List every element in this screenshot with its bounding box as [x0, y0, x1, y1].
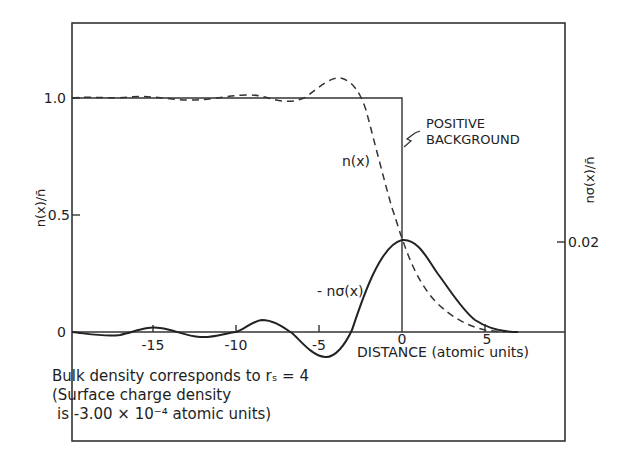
left-axis-label: n(x)/n̄	[33, 189, 48, 228]
x-tick-minus-15: -15	[142, 337, 165, 353]
x-tick-minus-10: -10	[225, 337, 248, 353]
note-line-3: is -3.00 × 10⁻⁴ atomic units)	[52, 405, 309, 424]
background-pointer	[404, 131, 420, 147]
background-label-line1: POSITIVE	[426, 116, 485, 131]
n-x-label: n(x)	[342, 153, 370, 169]
left-tick-0: 0	[57, 324, 66, 340]
left-y-axis	[72, 98, 80, 215]
left-tick-0-5: 0.5	[48, 207, 70, 223]
x-axis-ticks	[153, 324, 485, 332]
right-axis-label: nσ(x)/n̄	[582, 157, 597, 204]
n-sigma-label: - nσ(x)	[317, 283, 363, 299]
x-axis-label: DISTANCE (atomic units)	[357, 344, 529, 360]
x-tick-minus-5: -5	[312, 337, 326, 353]
note-line-1: Bulk density corresponds to rₛ = 4	[52, 367, 309, 386]
bulk-density-note: Bulk density corresponds to rₛ = 4 (Surf…	[52, 367, 309, 424]
right-tick-0-02: 0.02	[568, 234, 599, 250]
n-sigma-curve	[72, 240, 518, 357]
background-label-line2: BACKGROUND	[426, 132, 520, 147]
note-line-2: (Surface charge density	[52, 386, 309, 405]
left-tick-1-0: 1.0	[44, 90, 66, 106]
